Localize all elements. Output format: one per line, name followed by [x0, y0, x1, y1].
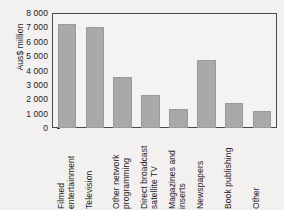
- bar: [58, 24, 76, 128]
- y-axis-tick-label: 7 000: [8, 22, 48, 32]
- bar: [169, 109, 187, 128]
- bar: [253, 111, 271, 128]
- x-axis-category-label: Direct broadcast satellite TV: [140, 129, 162, 209]
- y-axis-tick-label: 4 000: [8, 66, 48, 76]
- x-axis-category-labels: Filmed entertainmentTelevisionOther netw…: [53, 129, 276, 210]
- bar: [141, 95, 159, 128]
- y-axis-tick-label: 6 000: [8, 37, 48, 47]
- bars-group: [53, 13, 276, 128]
- y-axis-tick-label: 2 000: [8, 94, 48, 104]
- y-axis-tick-label: 0: [8, 123, 48, 133]
- x-axis-category-label: Magazines and inserts: [168, 129, 190, 209]
- bar: [197, 60, 215, 128]
- x-axis-category-label: Other network programming: [112, 129, 134, 209]
- x-axis-category-label: Television: [85, 129, 107, 209]
- bar-chart-figure: Aus$ million 8 0007 0006 0005 0004 0003 …: [0, 0, 284, 210]
- y-axis-tick-label: 8 000: [8, 8, 48, 18]
- x-axis-category-label: Other: [252, 129, 274, 209]
- x-axis-category-label: Newspapers: [196, 129, 218, 209]
- bar: [86, 27, 104, 128]
- y-axis-tick-labels: 8 0007 0006 0005 0004 0003 0002 0001 000…: [8, 13, 48, 128]
- x-axis-category-label: Book publishing: [224, 129, 246, 209]
- bar: [225, 103, 243, 128]
- y-axis-tick-label: 3 000: [8, 80, 48, 90]
- x-axis-category-label: Filmed entertainment: [57, 129, 79, 209]
- y-axis-tick-label: 1 000: [8, 109, 48, 119]
- y-axis-tick-label: 5 000: [8, 51, 48, 61]
- bar: [113, 77, 131, 128]
